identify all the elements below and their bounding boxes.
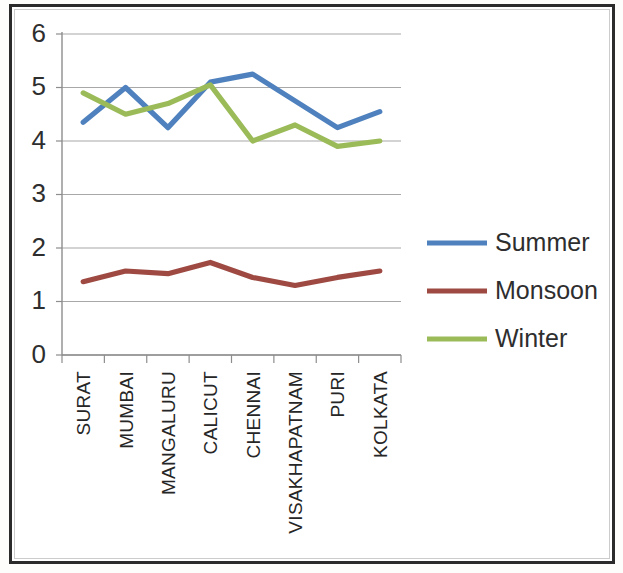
x-tick-label: SURAT [73,371,94,436]
x-tick-labels-group: SURATMUMBAIMANGALURUCALICUTCHENNAIVISAKH… [73,371,391,534]
series-line-winter [83,85,380,147]
y-tick-label: 2 [32,232,46,262]
line-chart: 0123456SURATMUMBAIMANGALURUCALICUTCHENNA… [12,7,612,561]
x-tick-label: CALICUT [200,371,221,454]
y-tick-label: 5 [32,71,46,101]
y-tick-label: 3 [32,178,46,208]
legend-label-summer: Summer [495,228,589,256]
legend-item-summer[interactable]: Summer [427,228,589,256]
x-tick-label: VISAKHAPATNAM [285,371,306,534]
legend-item-monsoon[interactable]: Monsoon [427,276,598,304]
x-tick-label: CHENNAI [243,371,264,459]
x-tickmarks-group [62,355,401,363]
y-tick-label: 6 [32,18,46,48]
gridlines-group: 0123456 [32,18,401,369]
legend-item-winter[interactable]: Winter [427,324,567,352]
chart-figure: 0123456SURATMUMBAIMANGALURUCALICUTCHENNA… [0,0,623,573]
series-line-monsoon [83,262,380,285]
series-line-summer [83,74,380,128]
x-tick-label: MUMBAI [116,371,137,449]
legend-label-winter: Winter [495,324,567,352]
x-tick-label: PURI [327,371,348,418]
y-tick-label: 0 [32,339,46,369]
y-tick-label: 1 [32,285,46,315]
figure-border: 0123456SURATMUMBAIMANGALURUCALICUTCHENNA… [9,4,615,564]
y-tick-label: 4 [32,125,46,155]
legend: SummerMonsoonWinter [427,228,598,352]
legend-label-monsoon: Monsoon [495,276,598,304]
x-tick-label: MANGALURU [158,371,179,495]
x-tick-label: KOLKATA [370,371,391,458]
